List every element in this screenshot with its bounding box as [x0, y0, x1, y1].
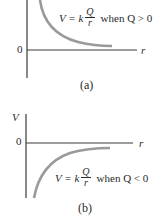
plot-b	[0, 108, 166, 216]
zero-label: 0	[17, 44, 23, 55]
formula-condition: when Q > 0	[101, 12, 153, 24]
denominator: r	[88, 18, 92, 28]
formula-lhs: V = k	[59, 12, 83, 24]
fraction: Q r	[85, 7, 94, 28]
formula-a: V = k Q r when Q > 0	[59, 7, 152, 28]
x-axis-label: r	[141, 45, 145, 56]
y-axis-label: V	[12, 112, 19, 123]
panel-b-negative-charge: V 0 r V = k Q r when Q < 0 (b)	[0, 108, 166, 216]
x-axis-label: r	[139, 138, 143, 149]
fraction: Q r	[81, 167, 90, 188]
formula-b: V = k Q r when Q < 0	[55, 167, 148, 188]
panel-a-positive-charge: 0 r V = k Q r when Q > 0 (a)	[0, 0, 166, 108]
formula-condition: when Q < 0	[97, 172, 149, 184]
caption-b: (b)	[78, 201, 92, 216]
formula-lhs: V = k	[55, 172, 79, 184]
zero-label: 0	[16, 136, 22, 147]
denominator: r	[84, 178, 88, 188]
caption-a: (a)	[80, 78, 93, 93]
